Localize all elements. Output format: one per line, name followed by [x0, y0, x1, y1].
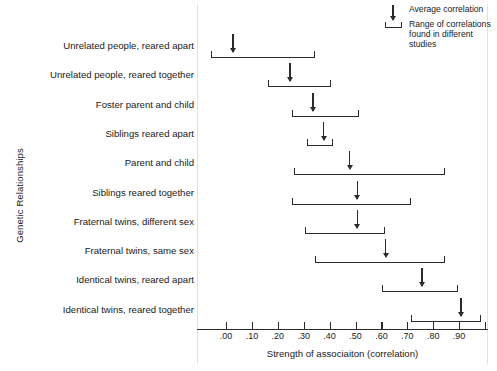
average-arrow — [232, 34, 234, 52]
average-arrow — [385, 239, 387, 257]
x-tick-mark — [459, 322, 460, 329]
range-bracket — [294, 168, 444, 175]
range-row — [198, 149, 489, 175]
x-tick-mark — [433, 322, 434, 329]
range-bracket — [292, 110, 359, 117]
category-label: Fraternal twins, same sex — [24, 245, 194, 256]
range-row — [198, 179, 489, 205]
x-tick-label: .90 — [444, 331, 474, 341]
average-arrow — [312, 93, 314, 111]
x-tick-mark — [407, 322, 408, 329]
range-row — [198, 237, 489, 263]
x-tick-mark — [278, 322, 279, 329]
bracket-icon — [383, 19, 405, 35]
legend-label-average: Average correlation — [409, 4, 497, 14]
legend-entry-range: Range of correlations found in different… — [383, 19, 497, 49]
x-tick-mark — [381, 322, 382, 329]
category-label: Identical twins, reared together — [24, 304, 194, 315]
average-arrow — [289, 63, 291, 81]
average-arrow — [460, 298, 462, 316]
category-label-list: Unrelated people, reared apartUnrelated … — [24, 0, 194, 310]
category-label: Fraternal twins, different sex — [24, 216, 194, 227]
range-row — [198, 120, 489, 146]
range-bracket — [268, 80, 330, 87]
average-arrow — [421, 268, 423, 286]
down-arrow-icon — [383, 4, 405, 20]
x-tick-mark — [252, 322, 253, 329]
correlation-range-chart: Genetic Relationships Unrelated people, … — [0, 0, 497, 371]
range-bracket — [315, 256, 445, 263]
range-bracket — [305, 227, 385, 234]
range-bracket — [292, 198, 411, 205]
range-row — [198, 266, 489, 292]
legend-entry-average: Average correlation — [383, 4, 497, 14]
category-label: Unrelated people, reared apart — [24, 40, 194, 51]
category-label: Identical twins, reared apart — [24, 274, 194, 285]
category-label: Siblings reared apart — [24, 128, 194, 139]
y-axis-title: Genetic Relationships — [14, 116, 25, 276]
x-axis: Strength of associaiton (correlation) .0… — [197, 320, 488, 370]
average-arrow — [323, 122, 325, 140]
range-row — [198, 61, 489, 87]
x-tick-mark — [356, 322, 357, 329]
average-arrow — [357, 181, 359, 199]
range-row — [198, 296, 489, 322]
average-arrow — [349, 151, 351, 169]
category-label: Foster parent and child — [24, 99, 194, 110]
x-tick-mark — [304, 322, 305, 329]
category-label: Siblings reared together — [24, 187, 194, 198]
x-tick-mark — [485, 322, 486, 329]
category-label: Unrelated people, reared together — [24, 69, 194, 80]
category-label: Parent and child — [24, 157, 194, 168]
x-axis-title: Strength of associaiton (correlation) — [197, 348, 488, 359]
average-arrow — [357, 210, 359, 228]
range-row — [198, 208, 489, 234]
chart-legend: Average correlation Range of correlation… — [383, 4, 497, 54]
legend-label-range: Range of correlations found in different… — [409, 19, 497, 49]
x-tick-mark — [330, 322, 331, 329]
range-row — [198, 91, 489, 117]
range-bracket — [211, 51, 315, 58]
x-tick-mark — [226, 322, 227, 329]
plot-panel — [197, 4, 488, 364]
